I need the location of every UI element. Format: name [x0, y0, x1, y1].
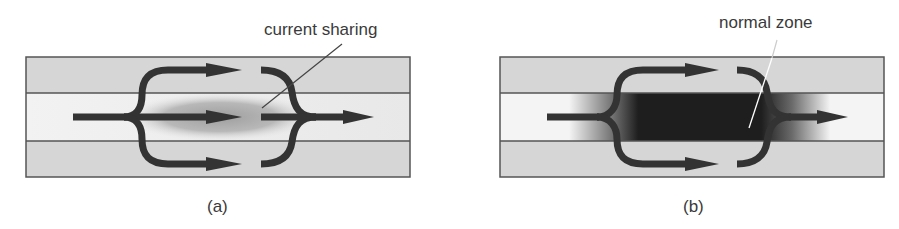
panel-a: current sharing (a) [0, 0, 450, 229]
annotation-normal-zone: normal zone [719, 13, 813, 33]
panel-b: normal zone (b) [449, 0, 899, 229]
conductor-diagram-a [0, 0, 450, 229]
annotation-current-sharing: current sharing [264, 20, 377, 40]
top-layer [26, 57, 410, 93]
caption-a: (a) [207, 197, 228, 217]
conductor-diagram-b [449, 0, 899, 229]
caption-b: (b) [683, 197, 704, 217]
bottom-layer [26, 141, 410, 177]
